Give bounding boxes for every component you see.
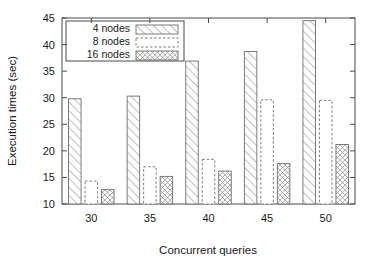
- bar-8-nodes: [261, 100, 274, 204]
- bar-16-nodes: [102, 190, 115, 204]
- y-tick-label: 35: [43, 65, 55, 77]
- y-tick-label: 10: [43, 198, 55, 210]
- bar-16-nodes: [277, 164, 290, 204]
- bar-4-nodes: [186, 61, 199, 204]
- y-tick-label: 20: [43, 145, 55, 157]
- bar-16-nodes: [336, 144, 349, 204]
- bar-8-nodes: [85, 181, 98, 204]
- x-axis-title: Concurrent queries: [159, 244, 257, 256]
- y-tick-label: 45: [43, 12, 55, 24]
- bar-8-nodes: [202, 159, 215, 204]
- y-axis-title: Execution times (sec): [6, 56, 18, 166]
- legend-label-8-nodes: 8 nodes: [93, 35, 130, 47]
- x-tick-label: 45: [261, 212, 273, 224]
- bar-4-nodes: [127, 96, 139, 204]
- bar-8-nodes: [319, 100, 332, 204]
- bar-chart: 1015202530354045 3035404550 4 nodes 8 no…: [0, 0, 369, 264]
- x-tick-label: 50: [320, 212, 332, 224]
- x-tick-label: 30: [85, 212, 97, 224]
- y-tick-label: 25: [43, 118, 55, 130]
- legend-label-4-nodes: 4 nodes: [93, 22, 130, 34]
- legend-swatch-4-nodes: [136, 25, 178, 34]
- bar-8-nodes: [144, 167, 157, 204]
- bar-16-nodes: [160, 176, 173, 204]
- x-tick-label: 40: [202, 212, 214, 224]
- legend-swatch-16-nodes: [136, 51, 178, 60]
- chart-canvas: 1015202530354045 3035404550 4 nodes 8 no…: [0, 0, 369, 264]
- legend-swatch-8-nodes: [136, 38, 178, 47]
- bar-4-nodes: [303, 21, 316, 204]
- bar-4-nodes: [69, 99, 82, 204]
- bar-16-nodes: [219, 171, 232, 204]
- legend-label-16-nodes: 16 nodes: [87, 48, 130, 60]
- y-tick-label: 40: [43, 39, 55, 51]
- y-tick-label: 15: [43, 171, 55, 183]
- y-tick-label: 30: [43, 92, 55, 104]
- x-tick-label: 35: [144, 212, 156, 224]
- bar-4-nodes: [244, 51, 257, 204]
